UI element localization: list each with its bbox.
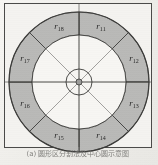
figure-caption: (a) 圆形区分割法及中心圆示意图 xyxy=(4,150,152,159)
center-point xyxy=(76,79,82,85)
sector-label-subscript: 15 xyxy=(58,135,64,141)
figure-root: r11r12r13r14r15r16r17r18 (a) 圆形区分割法及中心圆示… xyxy=(0,0,158,165)
sector-label-base: r xyxy=(96,21,100,31)
sector-label-subscript: 13 xyxy=(133,103,139,109)
diagram-canvas xyxy=(0,0,158,165)
sector-label-r17: r17 xyxy=(20,53,30,63)
sector-label-subscript: 16 xyxy=(24,103,30,109)
sector-label-r12: r12 xyxy=(129,53,139,63)
sector-label-r13: r13 xyxy=(129,98,139,108)
sector-label-base: r xyxy=(20,98,24,108)
sector-label-subscript: 18 xyxy=(58,26,64,32)
sector-label-r18: r18 xyxy=(54,21,64,31)
sector-label-base: r xyxy=(96,130,100,140)
sector-label-r16: r16 xyxy=(20,98,30,108)
sector-label-base: r xyxy=(54,130,58,140)
sector-label-base: r xyxy=(129,53,133,63)
sector-label-base: r xyxy=(20,53,24,63)
sector-label-base: r xyxy=(54,21,58,31)
sector-label-subscript: 17 xyxy=(24,58,30,64)
sector-label-base: r xyxy=(129,98,133,108)
sector-label-r11: r11 xyxy=(96,21,105,31)
sector-label-r15: r15 xyxy=(54,130,64,140)
sector-label-subscript: 12 xyxy=(133,58,139,64)
circular-zone-partition-diagram xyxy=(0,0,158,165)
sector-label-subscript: 11 xyxy=(100,26,106,32)
sector-label-subscript: 14 xyxy=(100,135,106,141)
sector-label-r14: r14 xyxy=(96,130,106,140)
